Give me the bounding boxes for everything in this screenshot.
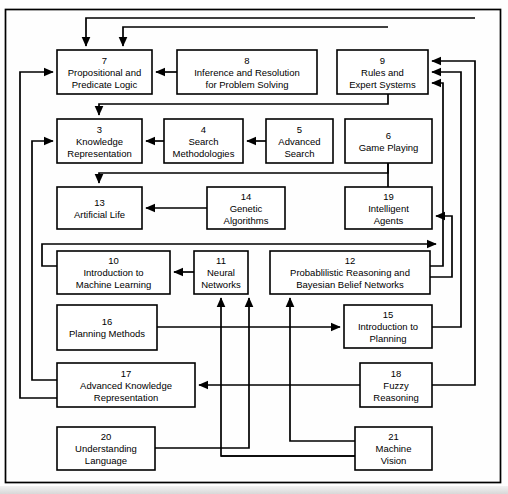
edge-15-to-9 xyxy=(432,72,461,327)
node-number-9: 9 xyxy=(380,55,385,66)
node-number-12: 12 xyxy=(345,255,356,266)
node-number-3: 3 xyxy=(97,124,102,135)
node-number-10: 10 xyxy=(108,255,119,266)
node-label-10-line-1: Machine Learning xyxy=(76,279,152,290)
node-label-11-line-0: Neural xyxy=(207,267,235,278)
node-label-4-line-0: Search xyxy=(188,136,218,147)
node-label-16-line-0: Planning Methods xyxy=(69,328,145,339)
edge-17-to-3 xyxy=(32,141,57,380)
node-number-19: 19 xyxy=(383,191,394,202)
node-box-10[interactable]: 10Introduction toMachine Learning xyxy=(57,251,170,294)
node-box-17[interactable]: 17Advanced KnowledgeRepresentation xyxy=(57,363,195,407)
node-label-20-line-0: Understanding xyxy=(75,443,137,454)
edge-21-to-11 xyxy=(221,298,355,456)
node-box-8[interactable]: 8Inference and Resolutionfor Problem Sol… xyxy=(177,50,317,94)
node-label-7-line-0: Propositional and xyxy=(68,67,141,78)
node-box-7[interactable]: 7Propositional andPredicate Logic xyxy=(57,50,152,94)
edge-9-to-3 xyxy=(99,94,388,115)
edge-6-to-13 xyxy=(99,163,388,183)
node-label-9-line-0: Rules and xyxy=(361,67,404,78)
node-number-16: 16 xyxy=(102,316,113,327)
chapter-dependency-diagram: 7Propositional andPredicate Logic8Infere… xyxy=(0,0,508,494)
node-label-7-line-1: Predicate Logic xyxy=(72,79,138,90)
node-label-14-line-1: Algorithms xyxy=(224,215,269,226)
node-label-14-line-0: Genetic xyxy=(230,203,263,214)
node-box-13[interactable]: 13Artificial Life xyxy=(57,187,142,229)
edge-12-to-19 xyxy=(430,216,452,277)
node-label-20-line-1: Language xyxy=(85,455,127,466)
diagram-canvas: 7Propositional andPredicate Logic8Infere… xyxy=(0,0,508,494)
node-box-14[interactable]: 14GeneticAlgorithms xyxy=(207,187,285,229)
node-box-16[interactable]: 16Planning Methods xyxy=(57,305,157,350)
node-label-15-line-0: Introduction to xyxy=(358,321,418,332)
node-label-19-line-0: Intelligent xyxy=(368,203,409,214)
node-label-21-line-0: Machine xyxy=(376,443,412,454)
node-number-15: 15 xyxy=(383,309,394,320)
node-label-15-line-1: Planning xyxy=(370,333,407,344)
node-label-8-line-1: for Problem Solving xyxy=(206,79,289,90)
node-box-15[interactable]: 15Introduction toPlanning xyxy=(344,305,432,348)
node-label-6-line-0: Game Playing xyxy=(359,142,419,153)
node-box-20[interactable]: 20UnderstandingLanguage xyxy=(57,427,155,470)
node-label-8-line-0: Inference and Resolution xyxy=(194,67,300,78)
node-number-7: 7 xyxy=(102,55,107,66)
node-label-11-line-1: Networks xyxy=(201,279,241,290)
node-number-5: 5 xyxy=(297,124,302,135)
edge-6-to-7-top xyxy=(123,27,388,46)
node-box-21[interactable]: 21MachineVision xyxy=(355,427,432,470)
node-label-5-line-0: Advanced xyxy=(278,136,320,147)
node-label-9-line-1: Expert Systems xyxy=(349,79,416,90)
node-label-12-line-1: Bayesian Belief Networks xyxy=(296,279,404,290)
node-number-18: 18 xyxy=(391,368,402,379)
node-label-3-line-0: Knowledge xyxy=(76,136,123,147)
node-number-13: 13 xyxy=(94,197,105,208)
node-label-19-line-1: Agents xyxy=(374,215,404,226)
node-number-11: 11 xyxy=(216,255,226,266)
node-box-12[interactable]: 12Probablilistic Reasoning andBayesian B… xyxy=(270,251,430,294)
node-label-17-line-1: Representation xyxy=(94,392,158,403)
node-label-5-line-1: Search xyxy=(284,148,314,159)
node-number-20: 20 xyxy=(101,431,112,442)
node-number-6: 6 xyxy=(386,130,391,141)
node-label-18-line-0: Fuzzy xyxy=(383,380,409,391)
node-box-9[interactable]: 9Rules andExpert Systems xyxy=(337,50,428,94)
node-number-14: 14 xyxy=(241,191,252,202)
node-label-4-line-1: Methodologies xyxy=(173,148,235,159)
node-box-5[interactable]: 5AdvancedSearch xyxy=(266,119,333,163)
node-box-19[interactable]: 19IntelligentAgents xyxy=(345,187,432,229)
node-number-8: 8 xyxy=(244,55,249,66)
node-layer: 7Propositional andPredicate Logic8Infere… xyxy=(57,50,432,470)
edge-18-to-9 xyxy=(432,61,475,385)
node-box-11[interactable]: 11NeuralNetworks xyxy=(194,251,248,294)
edge-17-to-7 xyxy=(20,72,57,398)
edge-9-to-7-top xyxy=(86,18,475,46)
node-label-3-line-1: Representation xyxy=(67,148,131,159)
node-number-21: 21 xyxy=(388,431,399,442)
node-label-12-line-0: Probablilistic Reasoning and xyxy=(290,267,410,278)
node-label-10-line-0: Introduction to xyxy=(83,267,143,278)
node-number-17: 17 xyxy=(121,368,132,379)
node-label-18-line-1: Reasoning xyxy=(373,392,418,403)
page-bottom-edge xyxy=(0,486,508,494)
node-box-3[interactable]: 3KnowledgeRepresentation xyxy=(57,119,142,163)
node-box-18[interactable]: 18FuzzyReasoning xyxy=(360,363,432,407)
node-number-4: 4 xyxy=(201,124,206,135)
node-label-21-line-1: Vision xyxy=(381,455,407,466)
node-label-13-line-0: Artificial Life xyxy=(74,209,125,220)
edge-12-to-9 xyxy=(430,83,443,266)
node-box-6[interactable]: 6Game Playing xyxy=(345,119,432,163)
node-box-4[interactable]: 4SearchMethodologies xyxy=(164,119,243,163)
node-label-17-line-0: Advanced Knowledge xyxy=(80,380,172,391)
